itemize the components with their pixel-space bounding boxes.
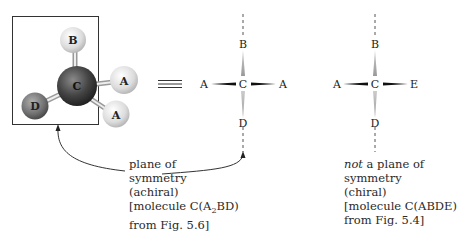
caption-chiral-line5: from Fig. 5.4] bbox=[344, 213, 457, 227]
caption-achiral-line2: symmetry bbox=[129, 171, 239, 185]
achiral-left-label: A bbox=[200, 79, 208, 90]
caption-achiral-line5: from Fig. 5.6] bbox=[129, 218, 239, 232]
arrowhead-right bbox=[241, 151, 246, 158]
atom-label-a1: A bbox=[120, 75, 129, 88]
caption-achiral-line4-pre: [molecule C(A bbox=[129, 199, 211, 213]
equivalence-symbol bbox=[158, 81, 182, 88]
caption-chiral-line3: (chiral) bbox=[344, 185, 457, 199]
atom-label-d: D bbox=[30, 100, 40, 113]
caption-chiral-line2: symmetry bbox=[344, 171, 457, 185]
achiral-top-label: B bbox=[239, 39, 247, 50]
atom-label-c: C bbox=[73, 80, 82, 93]
chiral-left-label: A bbox=[333, 79, 341, 90]
chiral-right-label: E bbox=[410, 79, 418, 90]
arrowhead-left bbox=[56, 124, 61, 131]
achiral-bottom-label: D bbox=[239, 118, 248, 129]
chiral-center-label: C bbox=[371, 79, 379, 90]
achiral-center-label: C bbox=[239, 79, 247, 90]
caption-chiral: not a plane of symmetry (chiral) [molecu… bbox=[344, 157, 457, 227]
atom-label-a2: A bbox=[112, 109, 121, 122]
caption-achiral-line3: (achiral) bbox=[129, 185, 239, 199]
chiral-top-label: B bbox=[371, 39, 379, 50]
atom-label-b: B bbox=[68, 34, 77, 47]
caption-achiral-line4: [molecule C(A2BD) bbox=[129, 199, 239, 218]
chiral-bottom-label: D bbox=[371, 118, 380, 129]
caption-chiral-line1-rest: a plane of bbox=[363, 157, 424, 171]
caption-chiral-line1: not a plane of bbox=[344, 157, 457, 171]
achiral-right-label: A bbox=[279, 79, 287, 90]
caption-achiral-line4-post: BD) bbox=[216, 199, 238, 213]
caption-chiral-line4: [molecule C(ABDE) bbox=[344, 199, 457, 213]
caption-chiral-not: not bbox=[344, 157, 363, 171]
caption-achiral-line1: plane of bbox=[129, 157, 239, 171]
caption-achiral: plane of symmetry (achiral) [molecule C(… bbox=[129, 157, 239, 232]
